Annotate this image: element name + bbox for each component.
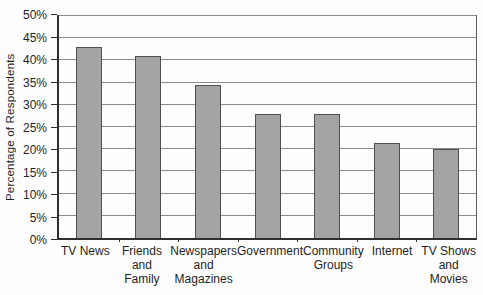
bar-tv-shows-and-movies <box>433 149 459 238</box>
bar-community-groups <box>314 114 340 238</box>
x-label-line: TV News <box>57 245 114 259</box>
x-label-line: Magazines <box>170 273 237 287</box>
x-tick-mark-2 <box>178 238 179 242</box>
bars-group <box>59 16 476 238</box>
gridline-30 <box>59 104 476 105</box>
bar-government <box>255 114 281 238</box>
bar-newspapers-and-magazines <box>195 85 221 238</box>
gridline-40 <box>59 59 476 60</box>
x-tick-mark-3 <box>238 238 239 242</box>
y-tick-label-20: 20% <box>23 144 47 156</box>
y-tick-label-10: 10% <box>23 189 47 201</box>
x-label-line: Groups <box>303 259 364 273</box>
y-axis: 0%5%10%15%20%25%30%35%40%45%50% <box>0 15 57 240</box>
y-tick-label-40: 40% <box>23 54 47 66</box>
x-tick-mark-4 <box>297 238 298 242</box>
x-label-tv-shows-and-movies: TV ShowsandMovies <box>420 245 477 286</box>
bar-slot <box>297 16 357 238</box>
x-tick-mark-6 <box>416 238 417 242</box>
x-axis-labels: TV NewsFriendsandFamilyNewspapersandMaga… <box>57 245 477 286</box>
x-label-line: and <box>170 259 237 273</box>
x-label-friends-and-family: FriendsandFamily <box>114 245 171 286</box>
bar-slot <box>178 16 238 238</box>
y-tick-label-50: 50% <box>23 9 47 21</box>
gridline-50 <box>59 15 476 16</box>
y-tick-label-45: 45% <box>23 32 47 44</box>
gridline-45 <box>59 37 476 38</box>
bar-slot <box>119 16 179 238</box>
x-label-line: Friends <box>114 245 171 259</box>
x-label-line: Government <box>237 245 303 259</box>
x-tick-mark-1 <box>119 238 120 242</box>
y-tick-label-25: 25% <box>23 122 47 134</box>
y-tick-label-35: 35% <box>23 77 47 89</box>
x-label-internet: Internet <box>364 245 421 286</box>
bar-internet <box>374 143 400 238</box>
bar-tv-news <box>76 47 102 238</box>
y-tick-label-0: 0% <box>30 234 47 246</box>
bar-slot <box>416 16 476 238</box>
x-label-government: Government <box>237 245 303 286</box>
x-label-line: TV Shows <box>420 245 477 259</box>
bar-slot <box>357 16 417 238</box>
bar-friends-and-family <box>135 56 161 238</box>
y-tick-label-30: 30% <box>23 99 47 111</box>
x-label-community-groups: CommunityGroups <box>303 245 364 286</box>
plot-area <box>57 15 477 240</box>
x-label-line: Community <box>303 245 364 259</box>
y-tick-label-5: 5% <box>30 212 47 224</box>
x-label-line: and <box>114 259 171 273</box>
x-label-line: Family <box>114 273 171 287</box>
x-label-line: Internet <box>364 245 421 259</box>
y-tick-label-15: 15% <box>23 167 47 179</box>
x-label-line: and <box>420 259 477 273</box>
x-label-line: Movies <box>420 273 477 287</box>
gridline-35 <box>59 82 476 83</box>
bar-chart-figure: Percentage of Respondents 0%5%10%15%20%2… <box>0 0 483 295</box>
x-label-tv-news: TV News <box>57 245 114 286</box>
x-tick-mark-5 <box>357 238 358 242</box>
bar-slot <box>59 16 119 238</box>
bar-slot <box>238 16 298 238</box>
x-label-newspapers-and-magazines: NewspapersandMagazines <box>170 245 237 286</box>
x-label-line: Newspapers <box>170 245 237 259</box>
